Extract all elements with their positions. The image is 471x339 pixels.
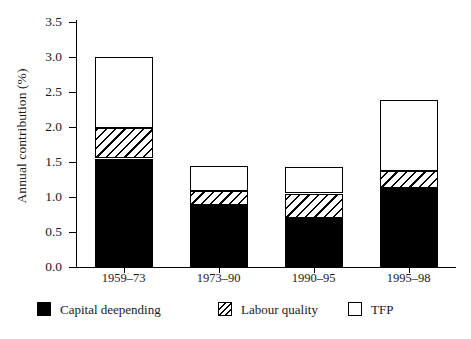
y-tick-label: 1.0 bbox=[18, 190, 62, 204]
y-tick-label: 1.5 bbox=[18, 155, 62, 169]
bar-segment-cap[interactable] bbox=[95, 159, 153, 268]
legend-item[interactable]: TFP bbox=[348, 300, 393, 318]
bar-stack[interactable] bbox=[190, 22, 248, 267]
y-tick-label: 3.0 bbox=[18, 50, 62, 64]
chart-figure: Annual contribution (%) 0.00.51.01.52.02… bbox=[0, 0, 471, 339]
y-tick-mark bbox=[69, 267, 77, 268]
y-tick-label: 2.0 bbox=[18, 120, 62, 134]
bar-segment-lab[interactable] bbox=[380, 171, 438, 188]
bar-segment-tfp[interactable] bbox=[285, 167, 343, 194]
bar-stack[interactable] bbox=[285, 22, 343, 267]
bar-segment-lab[interactable] bbox=[95, 128, 153, 158]
y-tick-label: 3.5 bbox=[18, 15, 62, 29]
x-tick-label: 1959–73 bbox=[79, 272, 169, 286]
bar-segment-cap[interactable] bbox=[380, 188, 438, 267]
solid-black-swatch bbox=[37, 302, 51, 316]
y-tick-label: 0.0 bbox=[18, 260, 62, 274]
legend-item[interactable]: Capital deepending bbox=[37, 300, 161, 318]
white-swatch bbox=[348, 302, 362, 316]
bar-segment-tfp[interactable] bbox=[95, 57, 153, 128]
x-tick-label: 1995–98 bbox=[364, 272, 454, 286]
x-axis-line bbox=[76, 267, 456, 268]
legend-item[interactable]: Labour quality bbox=[218, 300, 318, 318]
bar-segment-tfp[interactable] bbox=[190, 166, 248, 192]
bar-segment-lab[interactable] bbox=[285, 194, 343, 219]
bar-stack[interactable] bbox=[380, 22, 438, 267]
bar-segment-tfp[interactable] bbox=[380, 100, 438, 171]
bar-segment-lab[interactable] bbox=[190, 191, 248, 204]
legend-label: Labour quality bbox=[241, 303, 318, 316]
bar-stack[interactable] bbox=[95, 22, 153, 267]
y-tick-label: 0.5 bbox=[18, 225, 62, 239]
y-tick-label: 2.5 bbox=[18, 85, 62, 99]
plot-area bbox=[76, 22, 455, 267]
legend-label: Capital deepending bbox=[60, 303, 161, 316]
x-tick-label: 1973–90 bbox=[174, 272, 264, 286]
bar-segment-cap[interactable] bbox=[190, 205, 248, 267]
diagonal-hatch-swatch bbox=[218, 302, 232, 316]
legend-label: TFP bbox=[371, 303, 393, 316]
x-tick-label: 1990–95 bbox=[269, 272, 359, 286]
chart-legend: Capital deependingLabour qualityTFP bbox=[0, 300, 471, 322]
bar-segment-cap[interactable] bbox=[285, 218, 343, 267]
